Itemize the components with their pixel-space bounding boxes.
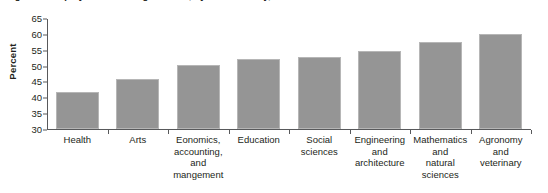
x-tick-label: Arts [108,134,169,146]
bar [116,79,159,129]
y-tick-label: 40 [31,94,42,104]
x-tick-label: Health [47,134,108,146]
y-axis-title: Percent [7,34,18,90]
figure-container: Figure 4. Employment rate of graduates, … [0,0,548,193]
bar [237,59,280,129]
plot-area: 3035404550556065 [47,19,531,130]
y-axis-line [47,19,48,130]
x-tick-mark [531,130,532,134]
bar [177,65,220,129]
bar [56,92,99,129]
y-tick-mark [43,130,47,131]
y-tick-label: 65 [31,14,42,24]
x-tick-label: Mathematicsandnaturalsciences [410,134,471,180]
y-tick-mark [43,66,47,67]
figure-caption: Figure 4. Employment rate of graduates, … [6,0,295,1]
figure-caption-strip: Figure 4. Employment rate of graduates, … [0,0,548,9]
x-tick-label: Engineeringandarchitecture [350,134,411,169]
y-tick-label: 30 [31,125,42,135]
y-tick-mark [43,82,47,83]
y-tick-mark [43,34,47,35]
y-tick-label: 60 [31,30,42,40]
x-tick-label: Education [229,134,290,146]
y-tick-label: 45 [31,78,42,88]
y-tick-mark [43,98,47,99]
x-axis-labels: HealthArtsEonomics,accounting,andmangeme… [47,134,531,192]
bar [419,42,462,129]
y-tick-mark [43,114,47,115]
y-tick-label: 55 [31,46,42,56]
y-tick-mark [43,19,47,20]
bar [298,57,341,129]
x-tick-label: Agronomyandveterinary [471,134,532,169]
x-tick-label: Eonomics,accounting,andmangement [168,134,229,180]
y-tick-mark [43,50,47,51]
bar [358,51,401,129]
y-tick-label: 50 [31,62,42,72]
bar [479,34,522,129]
y-tick-label: 35 [31,109,42,119]
x-tick-label: Socialsciences [289,134,350,157]
